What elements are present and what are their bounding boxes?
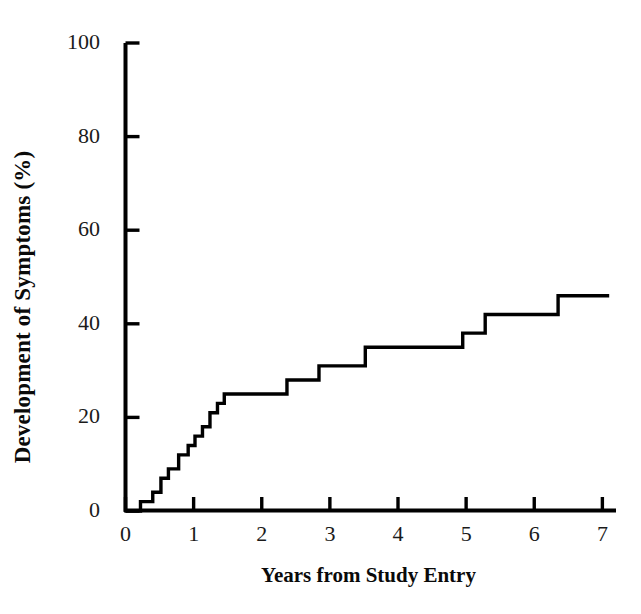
step-curve-series: [126, 296, 610, 511]
chart-figure: Development of Symptoms (%) 020406080100…: [0, 0, 641, 614]
y-axis-ticks: [126, 43, 140, 511]
axis-lines: [124, 43, 616, 512]
plot-area: [0, 0, 641, 614]
